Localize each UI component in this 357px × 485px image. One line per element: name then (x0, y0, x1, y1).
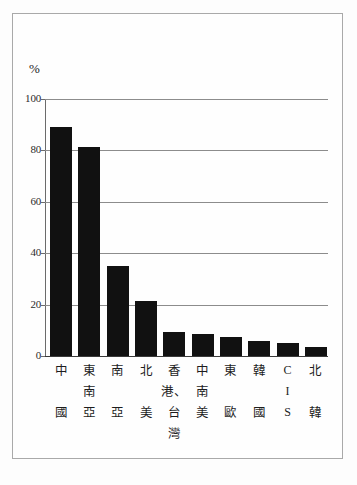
x-category-label: 東 歐 (216, 360, 246, 423)
x-category-label: 中南美 (188, 360, 218, 423)
x-category-label: 香港、台灣 (159, 360, 189, 444)
x-category-label-char: 東 (74, 360, 104, 381)
plot-area (45, 99, 328, 356)
x-category-label-char: 美 (131, 402, 161, 423)
x-category-label-char: 韓 (301, 402, 331, 423)
bar (192, 334, 214, 356)
bar (78, 147, 100, 356)
x-category-label-char (131, 381, 161, 402)
x-category-label-char: 歐 (216, 402, 246, 423)
x-category-label-char: 美 (188, 402, 218, 423)
x-category-label-char: C (273, 360, 303, 381)
bar (220, 337, 242, 356)
bar (135, 301, 157, 356)
x-category-label-char (46, 381, 76, 402)
x-category-label-char: 中 (46, 360, 76, 381)
bar (305, 347, 327, 356)
x-category-label-char: 北 (131, 360, 161, 381)
x-category-label-char: 港、台 (159, 381, 189, 423)
bar (163, 332, 185, 356)
y-tick-label: 40 (30, 247, 41, 258)
x-category-label-char: 韓 (244, 360, 274, 381)
figure-page: % 020406080100 中 國東南亞南 亞北 美香港、台灣中南美東 歐韓 … (0, 0, 357, 485)
x-category-label: 韓 國 (244, 360, 274, 423)
x-category-label-char: 南 (74, 381, 104, 402)
gridline (45, 99, 328, 100)
y-axis-tick-labels: 020406080100 (0, 0, 41, 485)
bar (277, 343, 299, 356)
x-category-label-char: 國 (46, 402, 76, 423)
x-category-label-char (216, 381, 246, 402)
y-tick-label: 60 (30, 196, 41, 207)
x-category-label-char: 灣 (159, 423, 189, 444)
bar (50, 127, 72, 356)
x-category-label: 北 美 (131, 360, 161, 423)
x-category-label-char: 亞 (74, 402, 104, 423)
bar (107, 266, 129, 356)
y-tick-label: 100 (25, 93, 41, 104)
y-tick-label: 80 (30, 144, 41, 155)
x-axis-category-labels: 中 國東南亞南 亞北 美香港、台灣中南美東 歐韓 國CIS北 韓 (45, 360, 328, 455)
x-category-label-char (301, 381, 331, 402)
x-category-label-char: 亞 (103, 402, 133, 423)
x-axis-line (45, 356, 328, 357)
x-category-label-char: 國 (244, 402, 274, 423)
x-category-label-char: S (273, 402, 303, 423)
x-category-label-char: 南 (103, 360, 133, 381)
x-category-label-char: I (273, 381, 303, 402)
x-category-label-char: 南 (188, 381, 218, 402)
y-tick-label: 20 (30, 299, 41, 310)
x-category-label: 南 亞 (103, 360, 133, 423)
x-category-label-char: 北 (301, 360, 331, 381)
x-category-label-char: 中 (188, 360, 218, 381)
x-category-label-char: 香 (159, 360, 189, 381)
x-category-label-char (103, 381, 133, 402)
x-category-label: 北 韓 (301, 360, 331, 423)
x-category-label-char (244, 381, 274, 402)
x-category-label: 東南亞 (74, 360, 104, 423)
x-category-label: 中 國 (46, 360, 76, 423)
x-category-label: CIS (273, 360, 303, 423)
bar (248, 341, 270, 356)
x-category-label-char: 東 (216, 360, 246, 381)
